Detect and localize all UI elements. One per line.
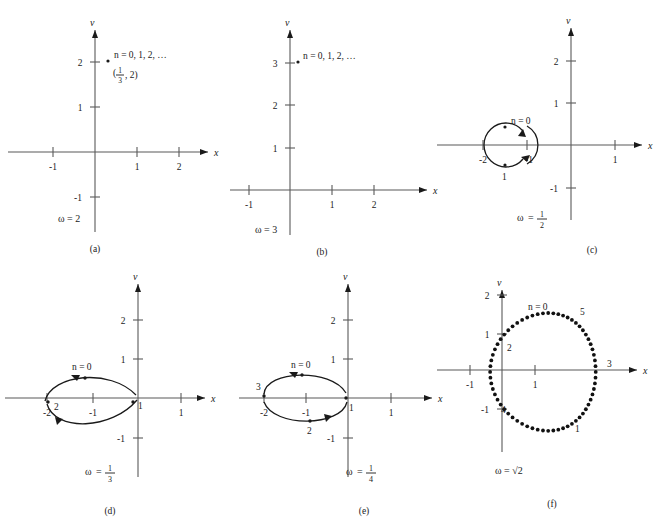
orbit-dot [496, 398, 500, 402]
orbit-dot [520, 422, 524, 426]
orbit-dot [584, 407, 588, 411]
orbit-dot [551, 311, 555, 315]
panel-e-caption: (e) [359, 506, 370, 517]
orbit-dot [594, 376, 598, 380]
orbit-dot [591, 393, 595, 397]
svg-text:-1: -1 [245, 200, 253, 210]
panel-f-point-label-4: 4 [501, 405, 506, 415]
orbit-dot [574, 419, 578, 423]
panel-f: x v -1 1 2 1 -1 n = 0 5 2 [432, 262, 665, 529]
orbit-dot [593, 381, 597, 385]
panel-c-point-label-1: 1 [502, 172, 507, 182]
orbit-dot [536, 312, 540, 316]
svg-text:=: = [96, 466, 102, 477]
x-axis-label: x [210, 393, 216, 404]
svg-text:2: 2 [554, 57, 559, 67]
panel-f-n-label: n = 0 [528, 302, 548, 312]
orbit-dot [525, 424, 529, 428]
panel-d-x-ticks: -2 -1 1 [43, 393, 184, 418]
svg-text:1: 1 [179, 408, 184, 418]
svg-text:1: 1 [330, 200, 335, 210]
panel-e-n-label: n = 0 [291, 360, 311, 370]
orbit-dot [566, 424, 570, 428]
panel-c-axes: x v [437, 15, 653, 220]
orbit-dot [489, 364, 493, 368]
panel-f-omega: ω = √2 [495, 465, 523, 476]
svg-text:=: = [528, 212, 534, 223]
svg-text:-1: -1 [117, 434, 125, 444]
orbit-dot [581, 328, 585, 332]
x-axis-label: x [647, 140, 653, 151]
v-axis-label: v [285, 17, 290, 28]
svg-text:ω: ω [346, 466, 353, 477]
orbit-dot [587, 403, 591, 407]
panel-c-v-ticks: 2 1 -1 [550, 57, 576, 194]
panel-a-data-point: n = 0, 1, 2, … ( 1 3 , 2) [106, 50, 166, 85]
orbit-dot [493, 347, 497, 351]
orbit-dot [574, 321, 578, 325]
orbit-dot [541, 429, 545, 433]
panel-c-x-ticks: -2 1 -1 [479, 140, 618, 165]
svg-text:2: 2 [78, 58, 83, 68]
panel-e-v-ticks: 2 1 -1 [327, 316, 353, 444]
panel-f-point-label-1: 1 [575, 424, 580, 434]
panel-a-v-ticks: 2 1 -1 [74, 58, 100, 203]
v-axis-label: v [90, 17, 95, 28]
svg-text:-1: -1 [49, 162, 57, 172]
orbit-dot [525, 316, 529, 320]
panel-f-point-label-2: 2 [507, 343, 512, 353]
orbit-dot [581, 412, 585, 416]
svg-text:-1: -1 [89, 408, 97, 418]
svg-text:ω: ω [85, 466, 92, 477]
orbit-dot [593, 359, 597, 363]
svg-text:1: 1 [613, 155, 618, 165]
panel-f-point-label-5: 5 [580, 307, 585, 317]
panel-f-v-ticks: 2 1 -1 [481, 291, 507, 415]
svg-text:1: 1 [273, 144, 278, 154]
svg-text:-1: -1 [74, 193, 82, 203]
orbit-dot [556, 312, 560, 316]
orbit-dot [496, 342, 500, 346]
orbit-dot [511, 324, 515, 328]
orbit-dot [566, 316, 570, 320]
panel-d-point-label-2: 2 [54, 402, 59, 412]
svg-text:1: 1 [121, 355, 126, 365]
x-axis-label: x [642, 365, 648, 376]
svg-text:2: 2 [540, 221, 544, 230]
orbit-dot [506, 412, 510, 416]
panel-d: x v -2 -1 1 2 1 -1 [0, 262, 230, 529]
orbit-dot [594, 364, 598, 368]
panel-f-caption: (f) [547, 499, 557, 510]
panel-b-omega: ω = 3 [255, 224, 277, 235]
orbit-dot [589, 398, 593, 402]
v-axis-label: v [566, 15, 571, 26]
svg-text:, 2): , 2) [125, 70, 138, 81]
panel-b: x v -1 1 2 3 2 1 n = 0, 1, 2, … [222, 0, 447, 262]
orbit-dot [570, 422, 574, 426]
panel-e-point-label-3: 3 [256, 382, 261, 392]
orbit-dot [531, 426, 535, 430]
panel-a-n-label: n = 0, 1, 2, … [114, 50, 167, 60]
svg-text:1: 1 [389, 408, 394, 418]
svg-text:-1: -1 [466, 380, 474, 390]
panel-b-x-ticks: -1 1 2 [245, 185, 377, 210]
panel-b-caption: (b) [316, 247, 327, 258]
svg-text:1: 1 [533, 380, 538, 390]
orbit-dot [578, 416, 582, 420]
panel-e-axes: x v [239, 271, 443, 477]
svg-text:1: 1 [135, 162, 140, 172]
panel-a-x-ticks: -1 1 2 [49, 147, 182, 172]
panel-e: x v -2 -1 1 2 1 -1 [236, 262, 461, 529]
v-axis-label: v [343, 271, 348, 282]
orbit-dot [493, 393, 497, 397]
figure-phase-plots: x v -1 1 2 2 1 -1 n = 0, 1, 2, [0, 0, 665, 529]
panel-c: x v -2 1 -1 2 1 -1 [432, 0, 665, 262]
orbit-dot [591, 347, 595, 351]
orbit-dot [491, 353, 495, 357]
orbit-dot [531, 314, 535, 318]
panel-d-n-label: n = 0 [72, 362, 92, 372]
panel-a-omega: ω = 2 [58, 213, 80, 224]
orbit-dot [589, 342, 593, 346]
orbit-dot [489, 359, 493, 363]
panel-d-data-points: n = 0 2 1 [46, 362, 143, 412]
